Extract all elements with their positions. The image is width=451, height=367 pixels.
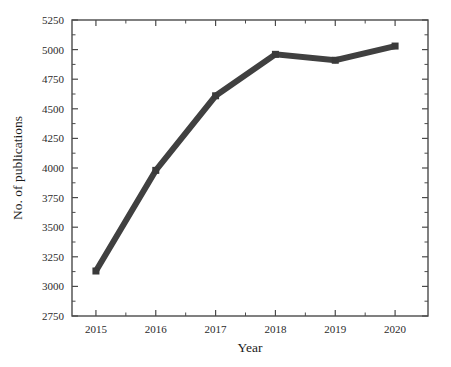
data-point-2016	[152, 167, 159, 174]
data-point-2015	[92, 268, 99, 275]
data-point-2020	[392, 43, 399, 50]
x-tick-label: 2016	[145, 323, 168, 335]
y-tick-label: 5250	[42, 14, 65, 26]
y-tick-label: 5000	[42, 44, 65, 56]
y-tick-label: 4250	[42, 132, 65, 144]
plot-area-background	[72, 20, 428, 316]
data-point-2017	[212, 92, 219, 99]
y-tick-label: 3750	[42, 192, 65, 204]
data-point-2018	[272, 51, 279, 58]
y-tick-label: 3250	[42, 251, 65, 263]
y-tick-label: 4500	[42, 103, 65, 115]
y-tick-label: 2750	[42, 310, 65, 322]
y-tick-label: 4750	[42, 73, 65, 85]
y-tick-label: 3500	[42, 221, 65, 233]
x-tick-label: 2017	[205, 323, 228, 335]
y-axis-tick-labels: 2750300032503500375040004250450047505000…	[42, 14, 65, 322]
x-tick-label: 2019	[324, 323, 347, 335]
x-tick-label: 2015	[85, 323, 108, 335]
y-axis-title: No. of publications	[10, 116, 25, 220]
y-tick-label: 3000	[42, 280, 65, 292]
x-tick-label: 2018	[264, 323, 287, 335]
x-tick-label: 2020	[384, 323, 407, 335]
y-tick-label: 4000	[42, 162, 65, 174]
data-point-2019	[332, 57, 339, 64]
publications-line-chart: 2750300032503500375040004250450047505000…	[0, 0, 451, 367]
chart-canvas: 2750300032503500375040004250450047505000…	[0, 0, 451, 367]
x-axis-tick-labels: 201520162017201820192020	[85, 323, 407, 335]
x-axis-title: Year	[238, 340, 263, 355]
